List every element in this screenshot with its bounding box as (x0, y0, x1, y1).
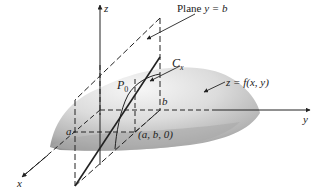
point-p0-label: P0 (117, 79, 128, 94)
plane-label-prefix: Plane (177, 2, 204, 14)
diagram-canvas (0, 0, 322, 194)
base-point-label: (a, b, 0) (138, 129, 173, 140)
curve-label-main: C (172, 56, 180, 70)
b-label: b (162, 96, 168, 107)
curve-label-sub: x (180, 63, 184, 72)
x-axis-label: x (17, 178, 22, 189)
curve-label: Cx (172, 57, 184, 72)
a-label: a (66, 126, 72, 137)
partial-derivative-diagram: z y x Plane y = b Cx z = f(x, y) P0 b a … (0, 0, 322, 194)
point-label-sub: 0 (124, 85, 128, 94)
surface-label: z = f(x, y) (226, 77, 269, 88)
plane-leader (147, 14, 195, 39)
y-axis-label: y (303, 114, 308, 125)
plane-label: Plane y = b (177, 3, 228, 14)
x-axis-visible (22, 155, 48, 177)
plane-label-equation: y = b (204, 2, 227, 14)
z-axis-label: z (104, 3, 108, 14)
